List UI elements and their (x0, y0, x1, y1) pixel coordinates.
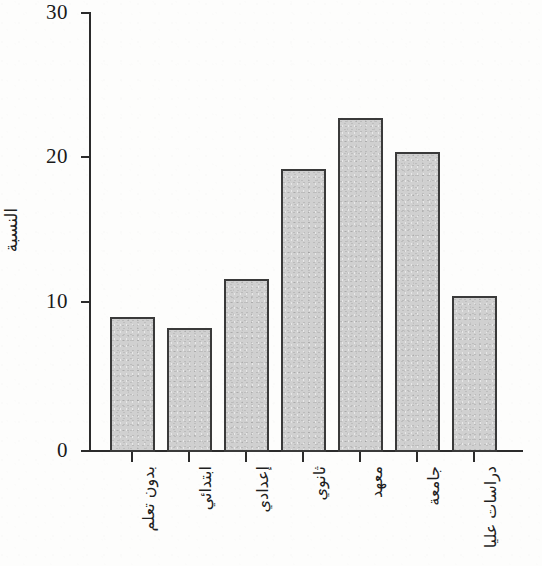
x-axis-tick-0 (131, 452, 133, 462)
x-axis-tick-5 (416, 452, 418, 462)
bar-1 (167, 328, 212, 452)
bar-3 (281, 169, 326, 452)
bar-2 (224, 279, 269, 452)
bar-4 (338, 118, 383, 452)
y-axis-line (89, 12, 91, 452)
bar-0 (110, 317, 155, 452)
x-axis-tick-1 (188, 452, 190, 462)
y-axis-tick-0 (81, 450, 90, 452)
bar-chart: 30 20 10 0 النسبة بدون تعلم ابتدائي إعدا… (0, 0, 542, 566)
x-axis-tick-4 (359, 452, 361, 462)
x-axis-tick-2 (245, 452, 247, 462)
x-axis-label-0: بدون تعلم (140, 466, 158, 566)
x-axis-label-4: معهد (368, 466, 386, 566)
x-axis-label-6: دراسات عليا (482, 466, 500, 566)
y-axis-tick-20 (81, 156, 90, 158)
y-axis-label-0: 0 (28, 440, 68, 461)
x-axis-label-3: ثانوي (311, 466, 329, 566)
y-axis-label-20: 20 (28, 146, 68, 167)
y-axis-label-10: 10 (28, 291, 68, 312)
y-axis-title: النسبة (2, 160, 21, 300)
bar-5 (395, 152, 440, 452)
y-axis-label-30: 30 (28, 2, 68, 23)
bar-6 (452, 296, 497, 452)
y-axis-tick-30 (81, 12, 90, 14)
x-axis-label-5: جامعة (425, 466, 443, 566)
x-axis-label-2: إعدادي (254, 466, 272, 566)
x-axis-tick-6 (473, 452, 475, 462)
y-axis-tick-10 (81, 301, 90, 303)
x-axis-tick-3 (302, 452, 304, 462)
x-axis-label-1: ابتدائي (197, 466, 215, 566)
